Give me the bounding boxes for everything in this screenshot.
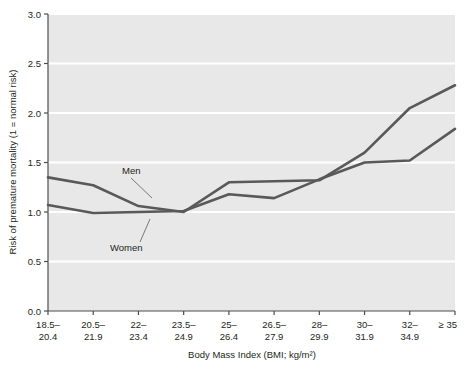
y-tick-label: 1.0 (28, 207, 41, 218)
x-tick-label: 23.5– (172, 319, 196, 330)
women-series-label: Women (110, 242, 143, 253)
x-tick-label: 31.9 (355, 331, 374, 342)
y-tick-label: 1.5 (28, 157, 41, 168)
x-tick-label: 32– (402, 319, 419, 330)
figure-caption-partial (6, 370, 470, 379)
y-tick-label: 2.0 (28, 108, 41, 119)
x-tick-label: 27.9 (265, 331, 284, 342)
x-tick-label: 24.9 (174, 331, 193, 342)
x-tick-label: ≥ 35 (439, 319, 457, 330)
y-axis-title: Risk of premature mortality (1 = normal … (7, 69, 18, 254)
x-tick-label: 26.5– (262, 319, 286, 330)
x-tick-label: 28– (311, 319, 328, 330)
x-tick-label: 29.9 (310, 331, 329, 342)
y-tick-label: 0.0 (28, 306, 41, 317)
x-tick-label: 26.4 (220, 331, 239, 342)
x-tick-label: 21.9 (84, 331, 103, 342)
x-tick-label: 20.4 (39, 331, 58, 342)
x-tick-label: 25– (221, 319, 238, 330)
men-series-label: Men (122, 165, 140, 176)
x-axis-title: Body Mass Index (BMI; kg/m²) (188, 349, 316, 360)
x-tick-label: 20.5– (81, 319, 105, 330)
x-tick-label: 34.9 (401, 331, 420, 342)
bmi-mortality-line-chart: 0.00.51.01.52.02.53.0 18.5–20.420.5–21.9… (0, 0, 476, 379)
x-tick-label: 22– (131, 319, 148, 330)
y-tick-label: 3.0 (28, 9, 41, 20)
y-tick-label: 0.5 (28, 256, 41, 267)
x-tick-label: 30– (357, 319, 374, 330)
y-tick-label: 2.5 (28, 58, 41, 69)
x-tick-label: 18.5– (36, 319, 60, 330)
x-tick-label: 23.4 (129, 331, 148, 342)
figure-container: 0.00.51.01.52.02.53.0 18.5–20.420.5–21.9… (0, 0, 476, 379)
